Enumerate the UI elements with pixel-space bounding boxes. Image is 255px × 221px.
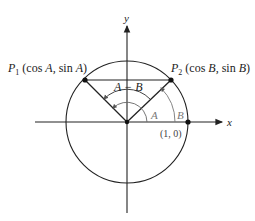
origin-point [125, 120, 129, 124]
p2-cos-part: (cos [185, 61, 208, 75]
angle-b-label: B [177, 109, 184, 121]
p1-close: ) [83, 61, 87, 75]
p1-label: P1(cos A, sin A) [7, 61, 87, 77]
p1-subscript: 1 [15, 68, 19, 77]
point-p2 [168, 77, 173, 82]
angle-a-label: A [150, 109, 158, 121]
p2-label: P2(cos B, sin B) [170, 61, 250, 77]
unit-point-label: (1, 0) [160, 128, 182, 140]
angle-b-arc [161, 88, 175, 122]
unit-circle-diagram: y x P1(cos A, sin A) P2(cos B, sin B) A … [0, 0, 255, 221]
p1-cos-part: (cos [22, 61, 45, 75]
point-p1 [82, 77, 87, 82]
p2-subscript: 2 [178, 68, 182, 77]
x-axis-label: x [226, 116, 232, 128]
angle-a-minus-b-label: A − B [113, 80, 143, 94]
p1-sin-part: , sin [53, 61, 76, 75]
p2-close: ) [246, 61, 250, 75]
p2-sin-part: , sin [216, 61, 239, 75]
point-unit [185, 119, 190, 124]
y-axis-label: y [123, 12, 129, 24]
